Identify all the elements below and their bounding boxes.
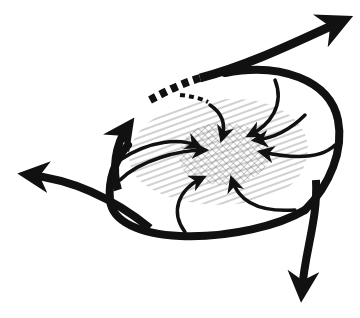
outflow-arrow-bottom [302, 180, 316, 290]
dashed-inner-path [180, 95, 208, 102]
outflow-arrow-left [30, 175, 150, 228]
convergence-diagram [0, 0, 360, 318]
